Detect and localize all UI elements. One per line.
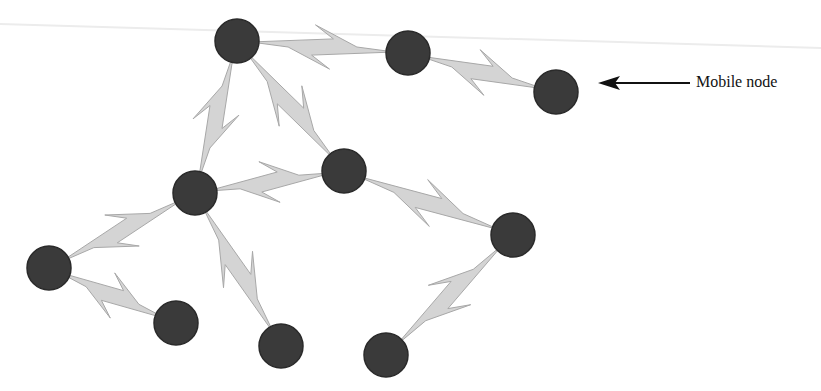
wireless-link-A-E [193, 53, 239, 181]
wireless-link-D-F [358, 176, 500, 230]
network-node-G [27, 246, 71, 290]
wireless-link-A-D [246, 51, 336, 160]
network-node-A [215, 19, 259, 63]
network-node-J [364, 333, 408, 377]
network-node-B [386, 31, 430, 75]
wireless-link-E-G [61, 199, 184, 262]
wireless-link-G-H [59, 272, 166, 318]
network-node-D [322, 149, 366, 193]
wireless-link-E-I [202, 205, 274, 334]
wireless-links [59, 25, 544, 346]
network-diagram [0, 0, 821, 391]
wireless-link-F-J [396, 245, 503, 346]
mobile-node [534, 70, 578, 114]
network-node-F [491, 213, 535, 257]
mobile-node-label: Mobile node [696, 73, 777, 91]
network-node-H [154, 301, 198, 345]
wireless-link-B-C [420, 50, 544, 96]
network-node-I [259, 324, 303, 368]
network-node-E [173, 171, 217, 215]
mobile-node-arrow-icon [598, 76, 690, 90]
wireless-link-E-D [207, 162, 332, 203]
